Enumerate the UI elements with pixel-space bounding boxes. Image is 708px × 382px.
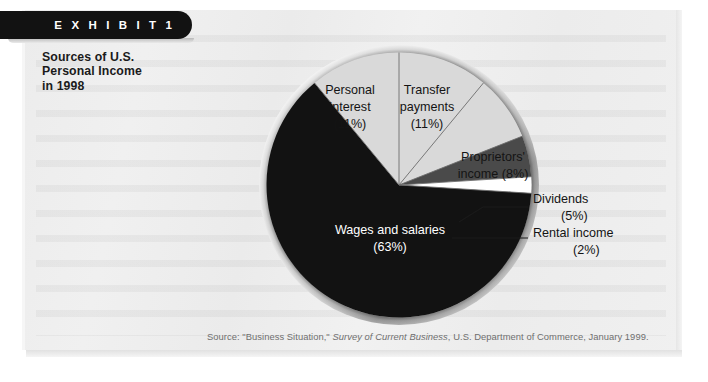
exhibit-figure: E X H I B I T 1 Sources of U.S. Personal… <box>0 0 708 382</box>
exhibit-title: Sources of U.S. Personal Income in 1998 <box>42 50 192 93</box>
pie-chart: Personal interest (11%) Transfer payment… <box>240 36 560 336</box>
panel-drop-shadow <box>26 350 682 357</box>
label-transfer-payments-line-2: payments <box>400 100 455 114</box>
pie-chart-svg: Personal interest (11%) Transfer payment… <box>240 36 560 336</box>
exhibit-title-line-3: in 1998 <box>42 79 192 93</box>
source-note-publication: Survey of Current Business <box>332 331 447 342</box>
label-dividends-line-1: Dividends <box>533 192 588 206</box>
label-personal-interest-line-2: interest <box>329 100 371 114</box>
label-rental-income-line-1: Rental income <box>533 226 614 240</box>
source-note-suffix: , U.S. Department of Commerce, January 1… <box>448 331 649 342</box>
label-rental-income-value: (2%) <box>573 243 600 257</box>
label-personal-interest-line-1: Personal <box>325 83 375 97</box>
source-note-prefix: Source: "Business Situation," <box>207 331 332 342</box>
label-transfer-payments-line-1: Transfer <box>404 83 450 97</box>
exhibit-title-line-2: Personal Income <box>42 64 192 78</box>
panel-right-edge <box>676 10 682 350</box>
label-proprietors-income-line-1: Proprietors' <box>461 150 525 164</box>
label-wages-and-salaries-value: (63%) <box>373 240 407 254</box>
label-wages-and-salaries-line-1: Wages and salaries <box>335 223 445 237</box>
exhibit-tab-label: E X H I B I T 1 <box>0 11 192 39</box>
panel-left-edge <box>22 10 25 350</box>
label-proprietors-income-line-2: income (8%) <box>458 167 529 181</box>
label-personal-interest-value: (11%) <box>334 117 367 131</box>
label-transfer-payments-value: (11%) <box>411 117 444 131</box>
exhibit-tab: E X H I B I T 1 <box>0 11 192 39</box>
exhibit-title-line-1: Sources of U.S. <box>42 50 192 64</box>
source-note: Source: "Business Situation," Survey of … <box>207 331 649 342</box>
label-dividends-value: (5%) <box>561 209 588 223</box>
